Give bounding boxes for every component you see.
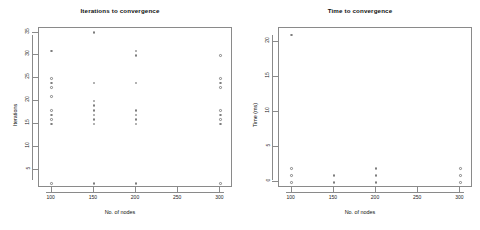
data-point — [93, 118, 96, 121]
data-point — [219, 86, 222, 89]
y-tick-label: 20 — [0, 96, 30, 102]
data-point — [375, 174, 378, 177]
x-axis-title: No. of nodes — [240, 209, 480, 215]
data-point — [375, 181, 378, 184]
y-tick-label-text: 35 — [24, 28, 30, 34]
data-point — [135, 118, 138, 121]
x-tick-label: 100 — [279, 194, 303, 200]
data-point — [135, 82, 138, 85]
panel-iterations: Iterations to convergence Iterations No.… — [0, 0, 240, 230]
data-point — [459, 167, 462, 170]
y-tick-label-text: 10 — [264, 107, 270, 113]
x-tick-label: 200 — [123, 194, 147, 200]
data-point — [219, 82, 222, 85]
y-tick-mark — [272, 76, 278, 77]
x-tick-mark — [417, 187, 418, 192]
data-point — [290, 181, 293, 184]
x-tick-mark — [375, 187, 376, 192]
y-axis-line — [32, 35, 33, 180]
y-tick-label-text: 5 — [266, 144, 272, 147]
y-tick-mark — [32, 54, 38, 55]
data-point — [290, 34, 293, 37]
y-tick-mark — [32, 169, 38, 170]
data-point — [219, 123, 222, 126]
data-point — [93, 182, 96, 185]
x-tick-label: 200 — [363, 194, 387, 200]
data-point — [459, 181, 462, 184]
y-tick-label-text: 10 — [24, 142, 30, 148]
y-tick-label: 10 — [0, 142, 30, 148]
y-tick-label: 5 — [0, 165, 30, 171]
data-point — [135, 114, 138, 117]
data-point — [333, 181, 336, 184]
x-tick-label: 150 — [81, 194, 105, 200]
data-point — [50, 50, 53, 53]
data-point — [50, 118, 53, 121]
x-tick-label: 250 — [405, 194, 429, 200]
data-point — [290, 167, 293, 170]
data-point — [290, 174, 293, 177]
y-tick-label-text: 20 — [264, 37, 270, 43]
data-point — [135, 50, 138, 53]
y-tick-label: 35 — [0, 28, 30, 34]
data-point — [375, 167, 378, 170]
y-tick-label-text: 15 — [264, 72, 270, 78]
figure-canvas: Iterations to convergence Iterations No.… — [0, 0, 480, 230]
data-point — [219, 77, 222, 80]
data-point — [135, 54, 138, 57]
y-tick-mark — [32, 32, 38, 33]
panel-title: Time to convergence — [240, 7, 480, 14]
y-tick-label: 30 — [0, 50, 30, 56]
data-point — [219, 182, 222, 185]
data-point — [219, 118, 222, 121]
panel-time: Time to convergence Time (ms) No. of nod… — [240, 0, 480, 230]
data-point — [459, 174, 462, 177]
data-point — [333, 174, 336, 177]
data-point — [93, 31, 96, 34]
data-point — [135, 182, 138, 185]
y-axis-line — [272, 35, 273, 180]
data-point — [50, 114, 53, 117]
data-point — [135, 123, 138, 126]
x-tick-mark — [459, 187, 460, 192]
y-tick-label: 0 — [240, 177, 270, 183]
y-tick-label-text: 20 — [24, 96, 30, 102]
x-tick-label: 250 — [165, 194, 189, 200]
x-tick-label: 150 — [321, 194, 345, 200]
panel-title: Iterations to convergence — [0, 7, 240, 14]
data-points-layer — [39, 28, 231, 186]
x-tick-mark — [219, 187, 220, 192]
y-tick-label: 10 — [240, 107, 270, 113]
plot-area — [278, 27, 472, 187]
y-tick-label-text: 5 — [26, 166, 32, 169]
data-point — [219, 54, 222, 57]
y-tick-label: 15 — [0, 119, 30, 125]
data-point — [219, 109, 222, 112]
data-point — [93, 104, 96, 107]
data-point — [93, 114, 96, 117]
x-tick-label: 300 — [207, 194, 231, 200]
data-point — [50, 77, 53, 80]
x-tick-mark — [333, 187, 334, 192]
data-point — [50, 82, 53, 85]
y-tick-mark — [272, 41, 278, 42]
data-point — [135, 109, 138, 112]
x-tick-mark — [291, 187, 292, 192]
y-tick-mark — [272, 146, 278, 147]
data-point — [219, 114, 222, 117]
y-tick-label-text: 0 — [266, 179, 272, 182]
y-axis-title: Iterations — [9, 0, 21, 230]
y-tick-mark — [32, 146, 38, 147]
plot-area — [38, 27, 232, 187]
data-point — [93, 123, 96, 126]
y-tick-label: 20 — [240, 37, 270, 43]
y-tick-mark — [32, 100, 38, 101]
y-tick-mark — [272, 181, 278, 182]
y-tick-label: 25 — [0, 73, 30, 79]
x-tick-label: 100 — [39, 194, 63, 200]
y-tick-mark — [32, 123, 38, 124]
x-tick-label: 300 — [447, 194, 471, 200]
y-tick-label: 15 — [240, 72, 270, 78]
x-axis-line — [286, 192, 464, 193]
data-point — [93, 100, 96, 103]
